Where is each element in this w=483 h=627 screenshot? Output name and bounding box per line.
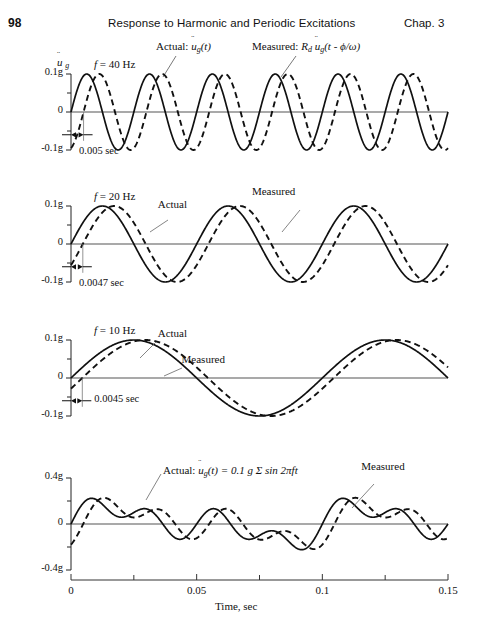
legend-measured: Measured: Rd u¨g(t - ϕ/ω) <box>252 40 360 54</box>
panel-10hz: 0.1g0-0.1gf = 10 Hz0.0045 secActualMeasu… <box>0 322 483 426</box>
phase-shift-label: 0.005 sec <box>79 145 119 156</box>
curve-annotation: Measured <box>361 460 404 472</box>
legend-actual-prefix: Actual: <box>156 40 188 52</box>
frequency-label: f = 20 Hz <box>94 190 135 202</box>
y-tick-label: 0.1g <box>45 198 63 209</box>
running-head: 98 Response to Harmonic and Periodic Exc… <box>0 16 483 36</box>
annotation-leader-line <box>150 220 168 232</box>
panel-10hz-plot <box>0 322 483 426</box>
phase-shift-arrow <box>62 378 91 407</box>
panel-sum-plot <box>0 462 483 582</box>
curve-annotation: Measured <box>252 185 295 197</box>
y-tick-label: 0.1g <box>45 66 63 77</box>
panel-40hz: 0.1g0-0.1gf = 40 Hz0.005 sec <box>0 62 483 162</box>
panel-40hz-plot <box>0 62 483 162</box>
textbook-page: 98 Response to Harmonic and Periodic Exc… <box>0 0 483 627</box>
y-tick-label: 0 <box>58 104 63 115</box>
measured-leader-line <box>352 484 374 508</box>
phase-shift-arrow <box>62 244 92 273</box>
legend-measured-prefix: Measured: <box>252 40 298 52</box>
x-tick-label: 0.05 <box>183 584 211 596</box>
equation-label: Actual: u¨g(t) = 0.1 g Σ sin 2πft <box>163 464 298 478</box>
annotation-leader-line <box>140 342 156 358</box>
y-tick-label: 0 <box>58 236 63 247</box>
panel-20hz-plot <box>0 188 483 292</box>
curve-annotation: Measured <box>182 353 225 365</box>
y-tick-label: 0 <box>58 370 63 381</box>
y-tick-label: 0.1g <box>45 332 63 343</box>
legend-measured-symbol: u¨g(t - ϕ/ω) <box>315 40 361 52</box>
panel-sum: 0.4g0-0.4gMeasuredActual: u¨g(t) = 0.1 g… <box>0 462 483 582</box>
x-tick-label: 0.1 <box>308 584 336 596</box>
legend-actual-symbol: u¨g(t) <box>191 40 211 52</box>
x-tick-label: 0 <box>57 584 85 596</box>
y-tick-label: 0.4g <box>45 470 63 481</box>
x-tick-label: 0.15 <box>434 584 462 596</box>
legend-actual: Actual: u¨g(t) <box>156 40 211 54</box>
y-tick-label: 0 <box>58 516 63 527</box>
legend-rd: R <box>301 40 308 52</box>
panel-20hz: 0.1g0-0.1gf = 20 Hz0.0047 secActualMeasu… <box>0 188 483 292</box>
phase-shift-label: 0.0047 sec <box>79 277 124 288</box>
annotation-leader-line <box>282 210 300 232</box>
frequency-label: f = 40 Hz <box>94 58 135 70</box>
y-tick-label: -0.4g <box>41 562 63 573</box>
y-tick-label: -0.1g <box>41 142 63 153</box>
chapter-label: Chap. 3 <box>404 17 444 29</box>
curve-annotation: Actual <box>158 327 187 339</box>
annotation-leader-line <box>164 368 182 376</box>
page-number: 98 <box>8 16 22 30</box>
x-axis-title: Time, sec <box>215 600 257 612</box>
y-tick-label: -0.1g <box>41 274 63 285</box>
equation-leader-line <box>146 474 161 500</box>
y-tick-label: -0.1g <box>41 408 63 419</box>
phase-shift-label: 0.0045 sec <box>94 393 139 404</box>
figure-legend: Actual: u¨g(t) Measured: Rd u¨g(t - ϕ/ω) <box>0 40 483 56</box>
running-title: Response to Harmonic and Periodic Excita… <box>108 17 355 29</box>
frequency-label: f = 10 Hz <box>94 324 135 336</box>
curve-annotation: Actual <box>158 198 187 210</box>
